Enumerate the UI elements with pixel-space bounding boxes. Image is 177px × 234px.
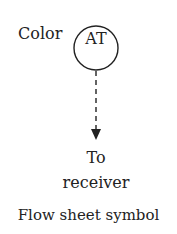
arrowhead-icon — [91, 129, 101, 140]
destination-line2: receiver — [0, 175, 177, 191]
destination-line1: To — [0, 150, 177, 166]
color-label: Color — [18, 26, 62, 42]
caption: Flow sheet symbol — [0, 208, 177, 223]
instrument-tag: AT — [78, 31, 114, 47]
